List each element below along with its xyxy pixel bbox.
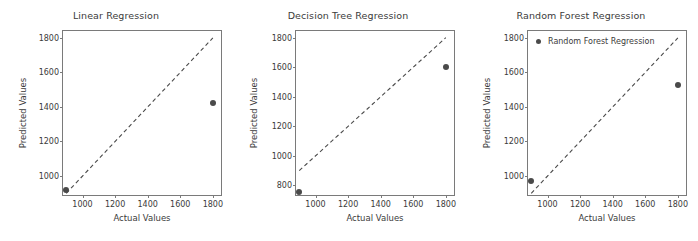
x-tick-mark [580,195,581,198]
x-tick-label: 1400 [603,200,623,209]
panel-title: Decision Tree Regression [232,10,464,21]
x-tick-mark [115,195,116,198]
x-tick-mark [348,195,349,198]
y-tick-label: 1600 [39,68,59,77]
x-tick-mark [381,195,382,198]
plot-area[interactable]: Random Forest Regression 100012001400160… [527,30,687,196]
x-tick-label: 1800 [436,200,456,209]
x-tick-mark [678,195,679,198]
y-tick-mark [293,67,296,68]
x-tick-label: 1400 [138,200,158,209]
panel-decision-tree-regression: Decision Tree Regression Predicted Value… [232,0,464,241]
y-tick-label: 1600 [272,63,292,72]
y-tick-label: 1000 [39,172,59,181]
y-tick-label: 800 [277,181,292,190]
x-tick-mark [413,195,414,198]
legend-label: Random Forest Regression [548,37,655,46]
x-tick-label: 1800 [203,200,223,209]
x-tick-label: 1600 [170,200,190,209]
y-tick-mark [293,185,296,186]
legend-marker-icon [536,39,541,44]
panel-random-forest-regression: Random Forest Regression Predicted Value… [464,0,698,241]
plot-area[interactable]: 8001000120014001600180010001200140016001… [295,30,455,196]
data-point[interactable] [443,64,449,70]
x-tick-mark [213,195,214,198]
y-tick-mark [293,156,296,157]
y-tick-label: 1800 [39,33,59,42]
plot-svg [63,31,223,197]
y-tick-label: 1000 [272,151,292,160]
y-tick-mark [60,38,63,39]
x-tick-mark [548,195,549,198]
y-tick-mark [293,97,296,98]
y-tick-mark [525,72,528,73]
reference-line [299,38,446,171]
y-tick-label: 1200 [39,137,59,146]
y-tick-label: 1800 [272,33,292,42]
y-tick-label: 1000 [504,172,524,181]
y-tick-mark [60,141,63,142]
y-tick-mark [525,107,528,108]
y-tick-mark [293,126,296,127]
x-tick-label: 1200 [570,200,590,209]
y-axis-label: Predicted Values [482,68,492,158]
panel-title: Random Forest Regression [464,10,698,21]
plot-svg [528,31,688,197]
figure-canvas: Linear Regression Predicted Values 10001… [0,0,698,241]
x-axis-label: Actual Values [528,213,686,223]
x-tick-label: 1200 [338,200,358,209]
reference-line [66,38,213,193]
x-tick-mark [180,195,181,198]
x-axis-label: Actual Values [296,213,454,223]
x-tick-label: 1600 [403,200,423,209]
x-tick-mark [645,195,646,198]
x-tick-label: 1000 [305,200,325,209]
x-axis-label: Actual Values [63,213,221,223]
x-tick-label: 1800 [668,200,688,209]
y-tick-label: 1400 [39,102,59,111]
y-axis-label: Predicted Values [18,68,28,158]
x-tick-label: 1000 [72,200,92,209]
panel-linear-regression: Linear Regression Predicted Values 10001… [0,0,232,241]
y-tick-label: 1400 [272,92,292,101]
x-tick-mark [446,195,447,198]
reference-line [531,38,678,193]
x-tick-label: 1400 [371,200,391,209]
y-tick-mark [525,141,528,142]
y-tick-mark [60,107,63,108]
y-tick-mark [525,38,528,39]
x-tick-mark [316,195,317,198]
data-point[interactable] [210,100,216,106]
y-tick-mark [525,176,528,177]
plot-area[interactable]: 1000120014001600180010001200140016001800… [62,30,222,196]
panel-title: Linear Regression [0,10,232,21]
x-tick-mark [613,195,614,198]
y-tick-mark [60,176,63,177]
y-tick-label: 1400 [504,102,524,111]
x-tick-mark [83,195,84,198]
x-tick-label: 1600 [635,200,655,209]
y-tick-mark [60,72,63,73]
y-tick-mark [293,38,296,39]
plot-svg [296,31,456,197]
y-tick-label: 1200 [272,122,292,131]
y-tick-label: 1600 [504,68,524,77]
x-tick-mark [148,195,149,198]
y-tick-label: 1200 [504,137,524,146]
legend[interactable]: Random Forest Regression [536,37,655,46]
x-tick-label: 1200 [105,200,125,209]
x-tick-label: 1000 [537,200,557,209]
y-axis-label: Predicted Values [249,68,259,158]
y-tick-label: 1800 [504,33,524,42]
